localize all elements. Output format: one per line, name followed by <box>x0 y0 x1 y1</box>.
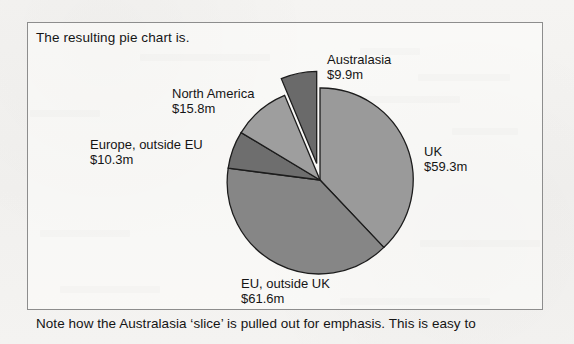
pie-label-eu-outside-uk-value: $61.6m <box>241 291 330 306</box>
pie-label-australasia-name: Australasia <box>327 52 391 67</box>
caption-text: Note how the Australasia ‘slice’ is pull… <box>36 316 476 331</box>
pie-label-eu-outside-uk-name: EU, outside UK <box>241 276 330 291</box>
pie-label-europe-outside-eu: Europe, outside EU $10.3m <box>90 137 203 167</box>
intro-text: The resulting pie chart is. <box>36 30 190 45</box>
pie-label-north-america-name: North America <box>172 86 254 101</box>
pie-label-north-america-value: $15.8m <box>172 101 254 116</box>
pie-label-eu-outside-uk: EU, outside UK $61.6m <box>241 276 330 306</box>
pie-label-uk-name: UK <box>424 144 467 159</box>
pie-label-europe-outside-eu-name: Europe, outside EU <box>90 137 203 152</box>
pie-label-australasia-value: $9.9m <box>327 67 391 82</box>
pie-label-north-america: North America $15.8m <box>172 86 254 116</box>
pie-label-europe-outside-eu-value: $10.3m <box>90 152 203 167</box>
pie-label-uk-value: $59.3m <box>424 159 467 174</box>
pie-label-uk: UK $59.3m <box>424 144 467 174</box>
pie-label-australasia: Australasia $9.9m <box>327 52 391 82</box>
